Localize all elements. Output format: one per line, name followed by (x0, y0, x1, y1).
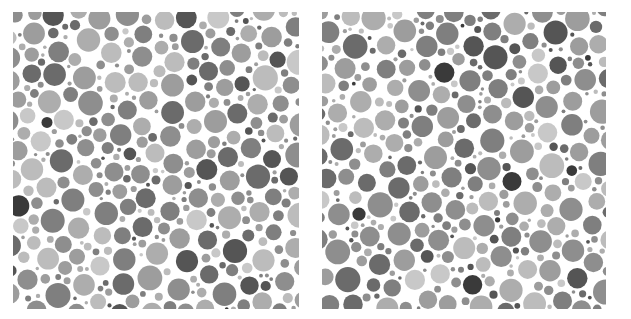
dot (593, 305, 602, 309)
dot (431, 225, 434, 228)
dot (241, 138, 261, 158)
dot (322, 125, 330, 146)
dot (225, 307, 229, 309)
dot (41, 274, 51, 284)
dot (422, 192, 442, 212)
dot (394, 20, 417, 43)
dot (222, 141, 227, 146)
dot (237, 299, 250, 309)
dot (499, 224, 503, 228)
dot (423, 269, 427, 273)
dot (453, 237, 475, 259)
dot (131, 165, 150, 184)
dot (200, 265, 218, 283)
dot (67, 65, 70, 68)
dot (478, 105, 482, 109)
dot (154, 217, 160, 223)
dot (421, 250, 434, 263)
dot (322, 148, 328, 165)
dot (231, 307, 236, 310)
dot (562, 178, 569, 185)
dot (400, 302, 412, 309)
dot (377, 243, 384, 250)
dot (94, 227, 111, 244)
dot (110, 124, 131, 145)
dot (410, 239, 424, 253)
dot (41, 53, 45, 57)
dot (112, 184, 127, 199)
dot (451, 80, 458, 87)
dot (178, 303, 194, 309)
dot (283, 189, 287, 193)
dot (363, 294, 371, 302)
dot (176, 250, 198, 272)
dot (231, 192, 244, 205)
dot (375, 98, 384, 107)
dot (585, 55, 591, 61)
dot (469, 195, 473, 199)
dot (50, 149, 73, 172)
dot (336, 198, 340, 202)
dot (132, 237, 136, 241)
dot (240, 25, 257, 42)
dot (255, 43, 262, 50)
dot (279, 115, 288, 124)
dot (349, 238, 353, 242)
dot (437, 107, 459, 129)
dot (547, 217, 565, 235)
dot (41, 158, 45, 162)
dot (97, 172, 103, 178)
dot (138, 266, 163, 291)
dot (73, 297, 77, 301)
dot (340, 94, 346, 100)
dot (482, 70, 493, 81)
dot (364, 144, 383, 163)
dot (335, 162, 339, 166)
dot (246, 66, 253, 73)
dot (473, 155, 477, 159)
dot (506, 213, 519, 226)
dot (30, 89, 39, 98)
dot (146, 144, 165, 163)
dot (338, 81, 349, 92)
dot (410, 48, 413, 51)
dot (241, 206, 246, 211)
dot (176, 12, 197, 28)
dot (403, 130, 412, 139)
dot (77, 139, 94, 156)
dot (181, 30, 204, 53)
dot (388, 156, 392, 160)
dot (553, 239, 562, 248)
dot (110, 95, 118, 103)
dot (588, 193, 605, 210)
dot (375, 110, 395, 130)
dot (490, 235, 499, 244)
dot (226, 264, 238, 276)
dot (426, 22, 434, 30)
dot (259, 274, 263, 278)
dot (390, 216, 396, 222)
dot (275, 245, 284, 254)
dot (38, 82, 44, 88)
dot (322, 169, 336, 189)
dot (125, 165, 131, 171)
dot (13, 31, 17, 45)
dot (394, 203, 398, 207)
dot (24, 85, 30, 91)
dot (104, 247, 112, 255)
dot (259, 237, 268, 246)
dot (431, 82, 435, 86)
dot (390, 271, 395, 276)
dot (594, 90, 598, 94)
dot (254, 62, 258, 66)
dot (364, 248, 372, 256)
dot (439, 295, 457, 309)
dot (54, 199, 59, 204)
dot (388, 222, 411, 245)
dot (565, 12, 590, 31)
dot (387, 17, 391, 21)
dot (326, 121, 330, 125)
dot (477, 157, 500, 180)
dot (160, 202, 179, 221)
dot (124, 37, 134, 47)
